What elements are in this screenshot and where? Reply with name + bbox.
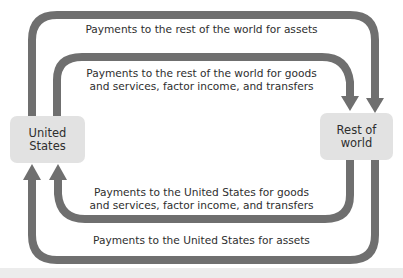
label-outer-bottom-flow: Payments to the United States for assets (80, 234, 323, 247)
label-inner-bottom-line1: Payments to the United States for goods (80, 186, 323, 199)
node-rest-of-world-line2: world (337, 137, 377, 150)
node-rest-of-world: Rest of world (320, 113, 393, 160)
node-rest-of-world-line1: Rest of (337, 124, 377, 137)
arrowhead-down-outer (366, 98, 384, 113)
label-outer-top-text: Payments to the rest of the world for as… (80, 23, 323, 36)
node-united-states-line1: United (29, 127, 67, 140)
arrowhead-down-inner (341, 96, 359, 111)
label-inner-bottom-flow: Payments to the United States for goods … (80, 186, 323, 211)
arrowhead-up-inner (49, 164, 67, 180)
label-inner-top-line1: Payments to the rest of the world for go… (80, 67, 323, 80)
label-outer-top-flow: Payments to the rest of the world for as… (80, 23, 323, 36)
node-united-states: United States (10, 116, 85, 163)
label-inner-bottom-line2: and services, factor income, and transfe… (80, 199, 323, 212)
node-united-states-line2: States (29, 140, 67, 153)
balance-of-payments-diagram: United States Rest of world Payments to … (0, 0, 403, 278)
page-edge-band (0, 268, 403, 278)
arrowhead-up-outer (23, 164, 41, 180)
label-outer-bottom-text: Payments to the United States for assets (80, 234, 323, 247)
label-inner-top-flow: Payments to the rest of the world for go… (80, 67, 323, 92)
label-inner-top-line2: and services, factor income, and transfe… (80, 80, 323, 93)
